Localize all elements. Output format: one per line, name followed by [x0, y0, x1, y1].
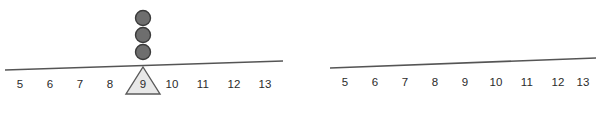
tick-label-blank-8: 8 — [424, 75, 446, 89]
tick-label-8: 8 — [99, 77, 121, 91]
tick-label-blank-9: 9 — [454, 75, 476, 89]
tick-label-6: 6 — [39, 77, 61, 91]
counter-dot-1 — [136, 11, 151, 26]
counter-dot-2 — [136, 28, 151, 43]
tick-label-13: 13 — [254, 77, 276, 91]
tick-label-blank-13: 13 — [572, 75, 594, 89]
worksheet-canvas: 9 5 6 7 8 10 11 12 13 5 6 7 8 9 10 11 12… — [0, 0, 596, 116]
tick-label-blank-10: 10 — [485, 75, 507, 89]
left-panel-graphics — [0, 0, 298, 116]
tick-label-7: 7 — [69, 77, 91, 91]
tick-label-blank-11: 11 — [516, 75, 538, 89]
counter-dot-3 — [136, 45, 151, 60]
tick-label-10: 10 — [161, 77, 183, 91]
tick-label-blank-12: 12 — [547, 75, 569, 89]
tick-label-12: 12 — [223, 77, 245, 91]
tick-label-5: 5 — [9, 77, 31, 91]
number-line-panel-left: 9 5 6 7 8 10 11 12 13 — [0, 0, 298, 116]
number-line-axis-blank — [330, 58, 596, 68]
tick-label-blank-6: 6 — [364, 75, 386, 89]
tick-label-blank-5: 5 — [334, 75, 356, 89]
tick-label-blank-7: 7 — [394, 75, 416, 89]
tick-label-11: 11 — [192, 77, 214, 91]
number-line-panel-right: 5 6 7 8 9 10 11 12 13 — [298, 0, 596, 116]
right-panel-graphics — [298, 0, 596, 116]
triangle-marker-value: 9 — [132, 77, 154, 91]
